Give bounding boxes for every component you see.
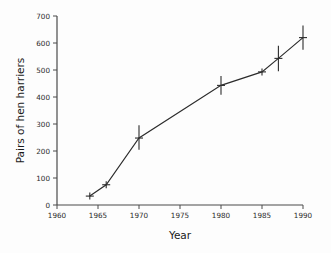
data-series-line (90, 38, 303, 196)
y-axis-title: Pairs of hen harriers (14, 58, 26, 164)
x-tick-label: 1970 (130, 211, 149, 220)
y-axis-tick-labels: 0100200300400500600700 (36, 12, 50, 210)
x-tick-label: 1990 (294, 211, 313, 220)
x-axis-ticks (57, 205, 303, 209)
y-tick-label: 300 (36, 120, 50, 129)
y-tick-label: 0 (45, 201, 50, 210)
x-tick-label: 1980 (212, 211, 231, 220)
y-tick-label: 100 (36, 174, 50, 183)
y-tick-label: 400 (36, 93, 50, 102)
x-tick-label: 1965 (89, 211, 107, 220)
line-chart-plot: 0100200300400500600700 19601965197019751… (0, 0, 331, 253)
y-tick-label: 700 (36, 12, 50, 21)
error-bars (139, 25, 303, 149)
x-tick-label: 1960 (48, 211, 67, 220)
x-tick-label: 1975 (171, 211, 189, 220)
x-axis-title: Year (168, 229, 192, 241)
x-tick-label: 1985 (253, 211, 271, 220)
x-axis-tick-labels: 1960196519701975198019851990 (48, 211, 313, 220)
y-tick-label: 200 (36, 147, 50, 156)
y-tick-label: 500 (36, 66, 50, 75)
chart-container: 0100200300400500600700 19601965197019751… (0, 0, 331, 253)
y-tick-label: 600 (36, 39, 50, 48)
